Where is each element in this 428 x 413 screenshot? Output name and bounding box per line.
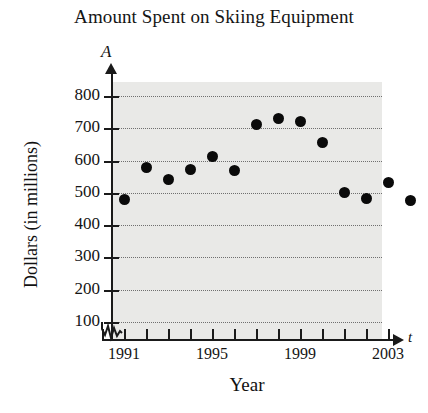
x-axis-tick: [278, 329, 280, 341]
data-point: [295, 116, 306, 127]
gridline: [112, 290, 382, 291]
y-axis-tick: [104, 96, 119, 98]
x-axis-variable-label: t: [408, 329, 412, 346]
y-axis-line: [111, 72, 113, 340]
gridline: [112, 225, 382, 226]
y-axis-variable-label: A: [101, 42, 111, 62]
data-point: [185, 164, 196, 175]
x-axis-tick-label: 1999: [270, 345, 330, 363]
y-axis-tick-label: 600: [52, 150, 100, 170]
y-axis-title: Dollars (in millions): [21, 110, 42, 320]
y-axis-tick-label: 500: [52, 182, 100, 202]
y-axis-tick-label: 300: [52, 246, 100, 266]
gridline: [112, 322, 382, 323]
x-axis-tick: [168, 329, 170, 341]
x-axis-tick: [300, 329, 302, 341]
y-axis-tick-label: 700: [52, 117, 100, 137]
x-axis-tick: [212, 329, 214, 341]
x-axis-tick-label: 1991: [94, 345, 154, 363]
x-axis-tick: [366, 329, 368, 341]
x-axis-tick: [256, 329, 258, 341]
data-point: [361, 193, 372, 204]
chart-title: Amount Spent on Skiing Equipment: [0, 6, 428, 28]
data-point: [251, 119, 262, 130]
x-axis-tick-label: 1995: [182, 345, 242, 363]
gridline: [112, 161, 382, 162]
y-axis-tick: [104, 290, 119, 292]
data-point: [317, 137, 328, 148]
y-axis-tick: [104, 225, 119, 227]
y-axis-tick: [104, 161, 119, 163]
y-axis-tick: [104, 257, 119, 259]
data-point: [229, 165, 240, 176]
data-point: [207, 151, 218, 162]
y-axis-arrow-icon: [105, 63, 117, 74]
data-point: [163, 174, 174, 185]
x-axis-tick: [190, 329, 192, 341]
axis-break-icon: [101, 322, 123, 342]
data-point: [273, 113, 284, 124]
x-axis-tick: [344, 329, 346, 341]
gridline: [112, 96, 382, 97]
x-axis-title: Year: [112, 374, 382, 396]
data-point: [383, 177, 394, 188]
gridline: [112, 257, 382, 258]
x-axis-tick: [124, 329, 126, 341]
y-axis-tick-label: 400: [52, 214, 100, 234]
data-point: [405, 195, 416, 206]
x-axis-tick: [234, 329, 236, 341]
y-axis-tick: [104, 193, 119, 195]
x-axis-tick: [388, 329, 390, 341]
data-point: [119, 194, 130, 205]
y-axis-tick-label: 200: [52, 279, 100, 299]
gridline: [112, 128, 382, 129]
x-axis-tick: [322, 329, 324, 341]
y-axis-tick: [104, 128, 119, 130]
y-axis-tick-label: 100: [52, 311, 100, 331]
data-point: [339, 187, 350, 198]
plot-area: [112, 82, 382, 340]
x-axis-tick-label: 2003: [358, 345, 418, 363]
y-axis-tick-label: 800: [52, 85, 100, 105]
scatter-chart-figure: Amount Spent on Skiing Equipment A t 100…: [0, 0, 428, 413]
x-axis-tick: [146, 329, 148, 341]
data-point: [141, 162, 152, 173]
